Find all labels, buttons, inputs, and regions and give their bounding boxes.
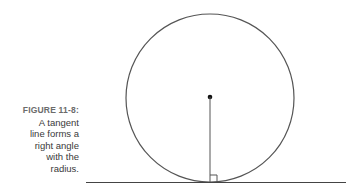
tangent-diagram [0,0,364,192]
right-angle-marker [210,175,217,182]
